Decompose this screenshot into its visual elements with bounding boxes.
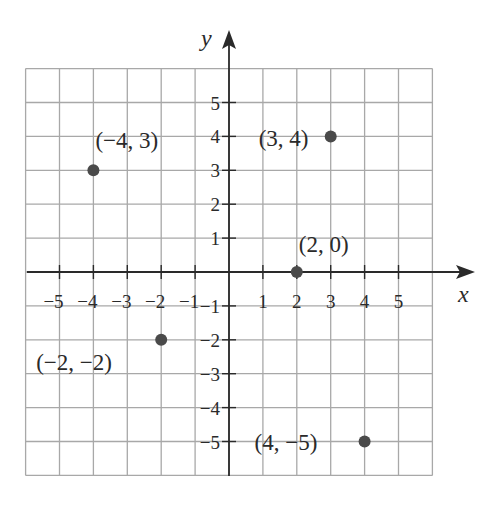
- y-tick-label: 1: [211, 228, 221, 249]
- x-tick-label: −1: [179, 291, 199, 312]
- point-label: (−4, 3): [95, 128, 158, 153]
- x-tick-label: −5: [43, 291, 63, 312]
- data-point: [291, 266, 303, 278]
- y-tick-label: −2: [200, 330, 220, 351]
- data-point: [359, 436, 371, 448]
- point-label: (−2, −2): [36, 350, 112, 375]
- data-point: [155, 334, 167, 346]
- y-tick-label: −3: [200, 364, 220, 385]
- data-point: [87, 164, 99, 176]
- x-tick-label: −3: [111, 291, 131, 312]
- data-point: [325, 130, 337, 142]
- point-label: (3, 4): [259, 126, 309, 151]
- point-label: (4, −5): [255, 430, 318, 455]
- point-label: (2, 0): [299, 232, 349, 257]
- y-tick-label: 2: [211, 194, 221, 215]
- coordinate-plane: x y −5−4−3−2−11234554321−1−2−3−4−5 (−4, …: [0, 0, 497, 506]
- x-tick-label: 3: [326, 291, 336, 312]
- y-tick-label: −1: [200, 296, 220, 317]
- x-tick-label: 1: [258, 291, 268, 312]
- y-tick-label: 5: [211, 93, 221, 114]
- x-tick-label: −2: [145, 291, 165, 312]
- y-tick-label: −4: [200, 398, 221, 419]
- y-axis-label: y: [199, 25, 212, 51]
- x-tick-label: −4: [77, 291, 98, 312]
- y-tick-label: 3: [211, 160, 221, 181]
- y-tick-label: −5: [200, 432, 220, 453]
- x-tick-label: 2: [292, 291, 302, 312]
- y-tick-label: 4: [211, 126, 221, 147]
- x-tick-label: 5: [394, 291, 404, 312]
- x-tick-label: 4: [360, 291, 370, 312]
- x-axis-label: x: [457, 281, 469, 307]
